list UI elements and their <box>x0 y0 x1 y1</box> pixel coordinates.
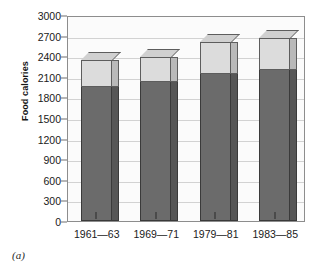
bar-column <box>259 31 297 221</box>
bar-base-mark <box>95 212 97 219</box>
bar-base-mark <box>274 212 276 219</box>
y-axis-tick-label: 0 <box>15 216 61 228</box>
figure-caption: (a) <box>12 249 25 261</box>
y-axis-tick-label: 2700 <box>15 31 61 43</box>
bar-segment-upper <box>259 38 290 70</box>
figure-container: Food calories 03006009001200150018002100… <box>0 0 325 273</box>
bar-segment-upper <box>200 42 231 74</box>
y-axis-tick-label: 2100 <box>15 72 61 84</box>
bar-side-upper <box>290 38 297 70</box>
bar-top-cap <box>81 52 121 60</box>
bar-side-upper <box>171 57 178 82</box>
x-axis-tick-label: 1969—71 <box>127 228 187 240</box>
bar-top-cap <box>200 34 240 42</box>
bar-top-cap <box>140 49 180 57</box>
bar-side-lower <box>231 74 238 221</box>
x-axis-tick-label: 1979—81 <box>186 228 246 240</box>
bar-segment-lower <box>140 82 171 221</box>
bar-segment-lower <box>200 74 231 221</box>
bar-segment-lower <box>81 87 112 221</box>
bar-base-mark <box>155 212 157 219</box>
y-axis-tick-label: 900 <box>15 154 61 166</box>
y-axis-tick-label: 2400 <box>15 51 61 63</box>
bar-column <box>81 53 119 221</box>
bar-top-cap <box>259 30 299 38</box>
y-axis-tick-label: 1200 <box>15 134 61 146</box>
y-axis-tick-label: 1800 <box>15 92 61 104</box>
bar-side-upper <box>231 42 238 74</box>
y-axis-tick-label: 3000 <box>15 10 61 22</box>
bar-segment-upper <box>81 60 112 87</box>
bar-side-lower <box>112 87 119 221</box>
bar-base-mark <box>214 212 216 219</box>
plot-area <box>67 16 305 222</box>
bar-segment-lower <box>259 70 290 221</box>
y-axis-tick-label: 600 <box>15 175 61 187</box>
bar-side-lower <box>290 70 297 221</box>
bar-segment-upper <box>140 57 171 82</box>
bar-side-upper <box>112 60 119 87</box>
x-axis-tick-label: 1961—63 <box>67 228 127 240</box>
bar-side-lower <box>171 82 178 221</box>
x-axis-tick-label: 1983—85 <box>246 228 306 240</box>
bar-column <box>200 35 238 221</box>
y-axis-tick-label: 300 <box>15 195 61 207</box>
y-axis-tick-label: 1500 <box>15 113 61 125</box>
bar-column <box>140 50 178 221</box>
